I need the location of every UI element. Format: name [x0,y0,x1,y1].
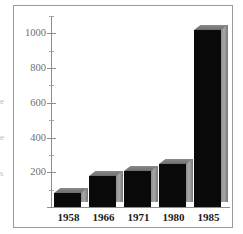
plot-area: 2004006008001000 19581966197119801985 [13,5,233,228]
margin-text-fragment: e [0,132,6,142]
bar-1958 [54,188,81,207]
x-axis-tick-label-1971: 1971 [119,211,158,224]
x-axis-tick-label-1958: 1958 [49,211,88,224]
bar-1971 [124,166,151,207]
y-axis-tick-minor [49,155,54,156]
bar-side-face [116,171,123,202]
bar-front-face [124,171,151,207]
bar-side-face [186,159,193,202]
y-axis-tick-major [47,103,56,104]
margin-text-fragment: s [0,168,6,178]
y-axis-tick-minor [49,120,54,121]
bar-top-face [159,159,192,164]
y-axis-tick-label-text: 600 [14,97,46,108]
x-axis-tick-label-1980: 1980 [154,211,193,224]
x-axis-tick-label-1985: 1985 [189,211,228,224]
y-axis-tick-minor [49,51,54,52]
bar-side-face [221,25,228,202]
bar-side-face [151,166,158,202]
y-axis-tick-major [47,68,56,69]
bar-front-face [194,30,221,207]
bar-front-face [54,193,81,207]
y-axis-tick-label-text: 200 [14,166,46,177]
y-axis-tick-label-text: 400 [14,132,46,143]
margin-text-fragment: e [0,96,6,106]
y-axis-tick-minor [49,85,54,86]
bar-1980 [159,159,186,207]
bar-1966 [89,171,116,207]
y-axis-tick-label-text: 1000 [14,27,46,38]
bar-front-face [89,176,116,207]
y-axis-tick-label-text: 800 [14,62,46,73]
y-axis-tick-major [47,33,56,34]
x-axis-tick-label-1966: 1966 [84,211,123,224]
chart-figure: ees 2004006008001000 1958196619711980198… [0,0,243,234]
bar-1985 [194,25,221,207]
x-axis-line [47,207,230,208]
y-axis-line [51,17,52,208]
y-axis-tick-major [47,172,56,173]
y-axis-tick-major [47,138,56,139]
y-axis-tick-minor [49,16,54,17]
bar-front-face [159,164,186,207]
